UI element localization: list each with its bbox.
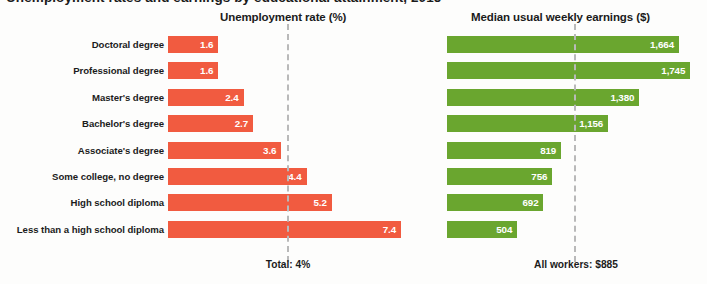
category-label: Some college, no degree [2,168,164,185]
category-label: Doctoral degree [2,36,164,53]
bar-earnings: 504 [447,221,517,238]
bar-value-label: 3.6 [263,145,281,156]
bar-value-label: 4.4 [288,171,306,182]
bar-value-label: 2.7 [235,118,253,129]
category-label: High school diploma [2,194,164,211]
bar-row: 756 [447,168,698,185]
bar-earnings: 819 [447,142,561,159]
category-label: Professional degree [2,62,164,79]
bar-value-label: 756 [531,171,552,182]
category-label-row: Doctoral degree [0,36,164,53]
bar-value-label: 2.4 [225,92,243,103]
bar-row: 1,745 [447,62,698,79]
bar-value-label: 692 [522,197,543,208]
bar-row: 7.4 [168,221,420,238]
bar-value-label: 1,156 [579,118,608,129]
chart-figure: Unemployment rates and earnings by educa… [0,0,707,284]
bar-value-label: 1,745 [661,65,690,76]
bar-unemployment: 3.6 [168,142,281,159]
bar-row: 1.6 [168,62,420,79]
category-label: Bachelor's degree [2,115,164,132]
unemployment-reference-line [287,24,289,262]
bar-earnings: 692 [447,194,543,211]
bar-value-label: 1,380 [610,92,639,103]
chart-title-cropped: Unemployment rates and earnings by educa… [0,0,707,5]
earnings-bar-panel: 1,6641,7451,3801,156819756692504 [447,36,698,248]
bar-unemployment: 4.4 [168,168,307,185]
earnings-total-label: All workers: $885 [534,259,618,270]
bar-value-label: 1.6 [200,65,218,76]
bar-value-label: 1.6 [200,39,218,50]
bar-row: 2.4 [168,89,420,106]
category-label-row: Some college, no degree [0,168,164,185]
bar-unemployment: 2.7 [168,115,253,132]
page-title: Unemployment rates and earnings by educa… [0,0,707,5]
category-label-row: High school diploma [0,194,164,211]
bar-row: 4.4 [168,168,420,185]
bar-earnings: 1,664 [447,36,679,53]
bar-row: 1.6 [168,36,420,53]
category-label-row: Master's degree [0,89,164,106]
category-axis-labels: Doctoral degreeProfessional degreeMaster… [0,36,164,248]
bar-unemployment: 1.6 [168,62,218,79]
bar-value-label: 5.2 [313,197,331,208]
category-label-row: Professional degree [0,62,164,79]
category-label: Associate's degree [2,142,164,159]
bar-unemployment: 7.4 [168,221,401,238]
bar-earnings: 756 [447,168,552,185]
bar-value-label: 7.4 [383,224,401,235]
bar-earnings: 1,745 [447,62,690,79]
column-header-earnings: Median usual weekly earnings ($) [471,11,650,23]
bar-row: 1,156 [447,115,698,132]
unemployment-total-label: Total: 4% [266,259,311,270]
unemployment-bar-panel: 1.61.62.42.73.64.45.27.4 [168,36,420,248]
earnings-reference-line [574,24,576,262]
bar-value-label: 819 [540,145,561,156]
bar-unemployment: 1.6 [168,36,218,53]
category-label-row: Bachelor's degree [0,115,164,132]
column-header-unemployment: Unemployment rate (%) [220,11,346,23]
bar-row: 1,664 [447,36,698,53]
bar-value-label: 1,664 [650,39,679,50]
bar-row: 2.7 [168,115,420,132]
bar-row: 3.6 [168,142,420,159]
category-label-row: Less than a high school diploma [0,221,164,238]
bar-value-label: 504 [496,224,517,235]
bar-row: 819 [447,142,698,159]
bar-row: 692 [447,194,698,211]
bar-earnings: 1,380 [447,89,639,106]
category-label-row: Associate's degree [0,142,164,159]
bar-row: 504 [447,221,698,238]
category-label: Less than a high school diploma [2,221,164,238]
bar-unemployment: 5.2 [168,194,332,211]
bar-unemployment: 2.4 [168,89,244,106]
category-label: Master's degree [2,89,164,106]
bar-row: 5.2 [168,194,420,211]
bar-row: 1,380 [447,89,698,106]
bar-earnings: 1,156 [447,115,608,132]
